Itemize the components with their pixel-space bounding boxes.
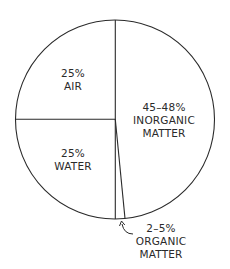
pie-chart — [0, 0, 230, 269]
air-name: AIR — [61, 80, 85, 93]
organic-pct: 2–5% — [136, 222, 187, 235]
organic-name-2: MATTER — [136, 248, 187, 261]
water-label: 25% WATER — [54, 147, 92, 173]
water-pct: 25% — [54, 147, 92, 160]
air-label: 25% AIR — [61, 67, 85, 93]
water-name: WATER — [54, 160, 92, 173]
inorganic-name-1: INORGANIC — [133, 114, 195, 127]
organic-arrow-icon — [122, 224, 133, 234]
inorganic-name-2: MATTER — [133, 127, 195, 140]
organic-label: 2–5% ORGANIC MATTER — [136, 222, 187, 261]
air-pct: 25% — [61, 67, 85, 80]
inorganic-label: 45–48% INORGANIC MATTER — [133, 101, 195, 140]
inorganic-pct: 45–48% — [133, 101, 195, 114]
organic-name-1: ORGANIC — [136, 235, 187, 248]
